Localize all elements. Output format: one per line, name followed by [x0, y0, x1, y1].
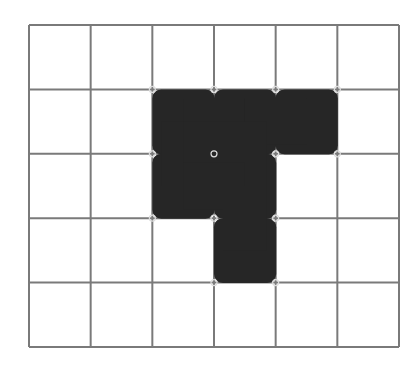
grid-diagram — [0, 0, 412, 369]
